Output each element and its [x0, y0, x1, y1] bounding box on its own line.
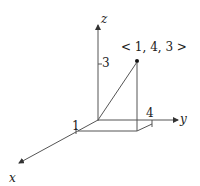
vector-line — [98, 62, 137, 120]
x-axis — [19, 120, 98, 163]
z-tick-label: 3 — [102, 56, 110, 70]
z-axis-label: z — [100, 12, 108, 26]
x-axis-label: x — [9, 171, 16, 185]
vector-diagram: z y x 3 4 1 < 1, 4, 3 > — [0, 0, 200, 186]
x-tick-label: 1 — [72, 119, 80, 133]
y-tick-label: 4 — [146, 106, 154, 120]
y-axis-label: y — [179, 112, 187, 126]
vector-label: < 1, 4, 3 > — [121, 40, 187, 54]
y-offset-line — [137, 124, 152, 131]
